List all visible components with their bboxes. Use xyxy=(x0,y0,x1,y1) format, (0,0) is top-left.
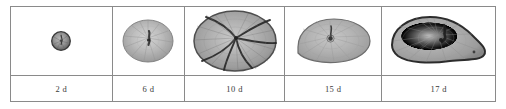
age-label-2d: 2 d xyxy=(11,76,113,101)
specimen-6d-graphic xyxy=(119,16,177,66)
specimen-17d-graphic xyxy=(386,11,492,71)
specimen-cell-6d xyxy=(113,7,186,75)
age-label-10d: 10 d xyxy=(185,76,285,101)
specimen-6d xyxy=(119,16,177,66)
specimen-cell-17d xyxy=(382,7,495,75)
specimen-15d xyxy=(290,13,376,69)
age-label-17d: 17 d xyxy=(382,76,495,101)
specimen-2d xyxy=(48,28,74,54)
specimen-image-row xyxy=(11,7,495,76)
age-label-15d: 15 d xyxy=(285,76,383,101)
age-label-row: 2 d 6 d 10 d 15 d 17 d xyxy=(11,76,495,101)
specimen-cell-2d xyxy=(11,7,113,75)
specimen-2d-graphic xyxy=(48,28,74,54)
specimen-cell-10d xyxy=(185,7,285,75)
specimen-cell-15d xyxy=(285,7,383,75)
specimen-table: 2 d 6 d 10 d 15 d 17 d xyxy=(10,6,496,102)
age-label-6d: 6 d xyxy=(113,76,186,101)
figure-root: 2 d 6 d 10 d 15 d 17 d xyxy=(0,0,506,109)
specimen-10d-graphic xyxy=(190,8,280,74)
specimen-17d xyxy=(386,11,492,71)
specimen-10d xyxy=(190,8,280,74)
specimen-15d-graphic xyxy=(290,13,376,69)
